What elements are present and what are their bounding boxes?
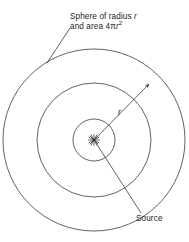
sphere-label-line-1: Sphere of radius r (70, 12, 137, 22)
radius-annotation-label: r (118, 107, 121, 117)
sphere-label-line-2-text: and area 4 (70, 22, 110, 31)
source-annotation-label: Source (136, 214, 163, 224)
sphere-label-radius-symbol: r (134, 12, 137, 21)
sphere-label-line-2: and area 4πr2 (70, 22, 137, 32)
diagram-canvas (0, 0, 189, 242)
sphere-label-leader-line (47, 28, 70, 63)
sphere-radiation-diagram: Sphere of radius r and area 4πr2 r Sourc… (0, 0, 189, 242)
sphere-label-line-1-text: Sphere of radius (70, 12, 134, 21)
radius-arrow (94, 84, 149, 140)
source-label-leader-line (96, 143, 141, 213)
sphere-label-exponent: 2 (119, 19, 123, 26)
sphere-annotation-label: Sphere of radius r and area 4πr2 (70, 12, 137, 32)
